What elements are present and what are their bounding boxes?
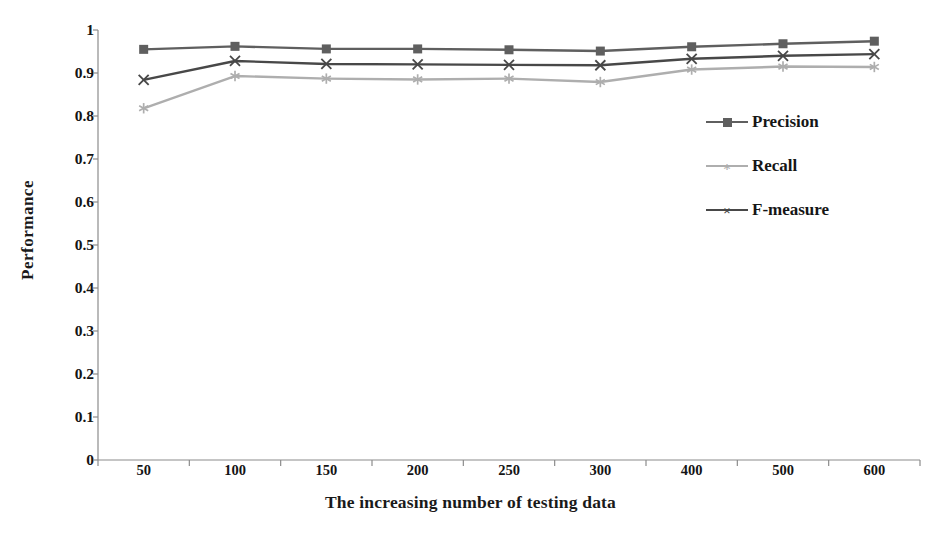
legend-item-f-measure[interactable]: ×F-measure xyxy=(706,188,829,232)
legend-item-recall[interactable]: ∗Recall xyxy=(706,144,829,188)
legend-label: Precision xyxy=(752,112,819,132)
x-axis-tick-label: 500 xyxy=(748,462,818,479)
data-point-marker-square xyxy=(139,45,148,54)
x-axis-tick-label: 100 xyxy=(200,462,270,479)
x-axis-tick-label: 250 xyxy=(474,462,544,479)
plot-area xyxy=(0,0,941,538)
data-point-marker-square xyxy=(231,42,240,51)
legend-marker-cross-icon: × xyxy=(721,204,733,216)
x-axis-tick-label: 600 xyxy=(839,462,909,479)
data-point-marker-square xyxy=(687,42,696,51)
x-axis-tick-label: 200 xyxy=(383,462,453,479)
performance-line-chart: Performance 00.10.20.30.40.50.60.70.80.9… xyxy=(0,0,941,538)
legend-marker-square-icon xyxy=(723,118,732,127)
data-point-marker-square xyxy=(870,37,879,46)
series-precision xyxy=(139,37,879,56)
data-point-marker-square xyxy=(596,47,605,56)
x-axis-tick-label: 400 xyxy=(657,462,727,479)
data-point-marker-square xyxy=(779,39,788,48)
x-axis-tick-label: 300 xyxy=(565,462,635,479)
data-point-marker-square xyxy=(505,45,514,54)
data-point-marker-square xyxy=(322,44,331,53)
legend-label: F-measure xyxy=(752,200,829,220)
x-axis-tick-label: 150 xyxy=(291,462,361,479)
legend-item-precision[interactable]: Precision xyxy=(706,100,829,144)
chart-legend: Precision∗Recall×F-measure xyxy=(706,100,829,232)
x-axis-tick-label: 50 xyxy=(109,462,179,479)
data-point-marker-square xyxy=(413,44,422,53)
legend-label: Recall xyxy=(752,156,797,176)
legend-swatch-cross-icon: × xyxy=(706,203,748,217)
legend-swatch-square-icon xyxy=(706,115,748,129)
x-axis-title: The increasing number of testing data xyxy=(0,492,941,513)
legend-swatch-star-icon: ∗ xyxy=(706,159,748,173)
legend-marker-star-icon: ∗ xyxy=(721,160,733,172)
